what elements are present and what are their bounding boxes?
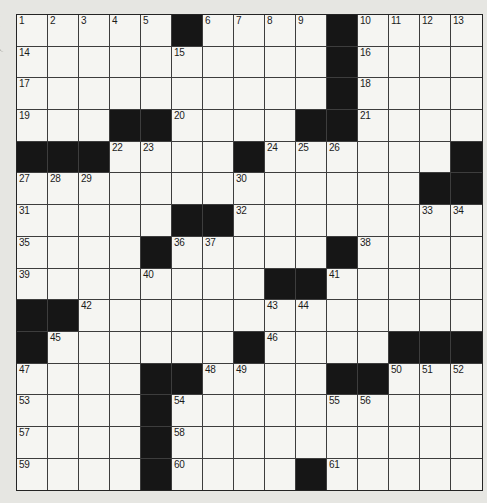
grid-cell[interactable] [358,459,389,491]
grid-cell[interactable]: 6 [203,15,234,47]
grid-cell[interactable] [389,205,420,237]
grid-cell[interactable] [389,173,420,205]
grid-cell[interactable]: 20 [172,110,203,142]
grid-cell[interactable] [110,237,141,269]
grid-cell[interactable] [141,173,172,205]
grid-cell[interactable] [48,395,79,427]
grid-cell[interactable]: 9 [296,15,327,47]
grid-cell[interactable] [79,269,110,301]
grid-cell[interactable] [110,78,141,110]
grid-cell[interactable] [172,173,203,205]
grid-cell[interactable] [358,427,389,459]
grid-cell[interactable]: 3 [79,15,110,47]
grid-cell[interactable] [110,205,141,237]
grid-cell[interactable] [420,78,451,110]
grid-cell[interactable]: 1 [17,15,48,47]
grid-cell[interactable]: 38 [358,237,389,269]
grid-cell[interactable] [420,110,451,142]
grid-cell[interactable]: 45 [48,332,79,364]
grid-cell[interactable]: 12 [420,15,451,47]
grid-cell[interactable]: 29 [79,173,110,205]
grid-cell[interactable] [451,47,482,79]
grid-cell[interactable] [110,300,141,332]
grid-cell[interactable] [420,459,451,491]
grid-cell[interactable] [451,300,482,332]
grid-cell[interactable] [296,332,327,364]
grid-cell[interactable]: 14 [17,47,48,79]
grid-cell[interactable]: 23 [141,142,172,174]
grid-cell[interactable]: 58 [172,427,203,459]
grid-cell[interactable] [327,205,358,237]
grid-cell[interactable] [203,269,234,301]
grid-cell[interactable] [203,110,234,142]
grid-cell[interactable] [296,364,327,396]
grid-cell[interactable] [110,459,141,491]
grid-cell[interactable] [389,427,420,459]
grid-cell[interactable]: 50 [389,364,420,396]
grid-cell[interactable] [79,78,110,110]
grid-cell[interactable] [296,237,327,269]
grid-cell[interactable]: 22 [110,142,141,174]
grid-cell[interactable] [389,237,420,269]
grid-cell[interactable] [234,269,265,301]
grid-cell[interactable] [110,47,141,79]
grid-cell[interactable] [296,395,327,427]
grid-cell[interactable] [451,237,482,269]
grid-cell[interactable]: 36 [172,237,203,269]
grid-cell[interactable]: 31 [17,205,48,237]
grid-cell[interactable] [420,47,451,79]
grid-cell[interactable]: 55 [327,395,358,427]
grid-cell[interactable] [203,173,234,205]
grid-cell[interactable] [48,269,79,301]
grid-cell[interactable]: 46 [265,332,296,364]
grid-cell[interactable] [110,269,141,301]
grid-cell[interactable] [389,459,420,491]
grid-cell[interactable]: 42 [79,300,110,332]
grid-cell[interactable]: 32 [234,205,265,237]
grid-cell[interactable]: 48 [203,364,234,396]
grid-cell[interactable]: 33 [420,205,451,237]
grid-cell[interactable] [110,395,141,427]
grid-cell[interactable] [296,78,327,110]
grid-cell[interactable]: 52 [451,364,482,396]
grid-cell[interactable]: 60 [172,459,203,491]
grid-cell[interactable] [203,427,234,459]
grid-cell[interactable]: 8 [265,15,296,47]
grid-cell[interactable] [234,395,265,427]
grid-cell[interactable] [79,395,110,427]
grid-cell[interactable]: 24 [265,142,296,174]
grid-cell[interactable] [141,47,172,79]
grid-cell[interactable]: 40 [141,269,172,301]
grid-cell[interactable] [141,332,172,364]
grid-cell[interactable]: 30 [234,173,265,205]
grid-cell[interactable]: 39 [17,269,48,301]
grid-cell[interactable] [172,332,203,364]
grid-cell[interactable] [203,78,234,110]
grid-cell[interactable] [79,332,110,364]
grid-cell[interactable] [203,332,234,364]
grid-cell[interactable] [79,364,110,396]
grid-cell[interactable] [110,364,141,396]
grid-cell[interactable] [172,142,203,174]
grid-cell[interactable] [48,364,79,396]
grid-cell[interactable] [451,427,482,459]
grid-cell[interactable] [296,205,327,237]
grid-cell[interactable] [172,269,203,301]
grid-cell[interactable]: 2 [48,15,79,47]
grid-cell[interactable] [451,110,482,142]
grid-cell[interactable] [327,300,358,332]
grid-cell[interactable]: 28 [48,173,79,205]
grid-cell[interactable] [389,142,420,174]
grid-cell[interactable] [420,269,451,301]
grid-cell[interactable] [79,110,110,142]
grid-cell[interactable]: 37 [203,237,234,269]
grid-cell[interactable] [141,300,172,332]
grid-cell[interactable]: 27 [17,173,48,205]
grid-cell[interactable] [389,110,420,142]
grid-cell[interactable] [389,395,420,427]
grid-cell[interactable] [358,142,389,174]
grid-cell[interactable]: 7 [234,15,265,47]
grid-cell[interactable] [48,205,79,237]
grid-cell[interactable] [234,237,265,269]
grid-cell[interactable] [79,459,110,491]
